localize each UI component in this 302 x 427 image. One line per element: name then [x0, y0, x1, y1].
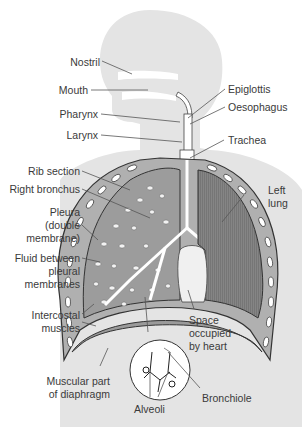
label-fluid-3: membranes [0, 278, 80, 290]
label-intercostal-1: Intercostal [0, 309, 80, 321]
label-nostril: Nostril [40, 56, 100, 68]
label-pharynx: Pharynx [40, 108, 98, 120]
label-space-2: occupied [189, 327, 231, 339]
label-mouth: Mouth [30, 84, 88, 96]
label-left-lung-2: lung [268, 197, 288, 209]
heart-space [178, 246, 207, 303]
label-space-1: Space [189, 314, 219, 326]
label-intercostal-2: muscles [0, 322, 80, 334]
label-fluid-1: Fluid between [0, 252, 80, 264]
label-epiglottis: Epiglottis [228, 83, 271, 95]
label-pleura-2: (double [0, 219, 80, 231]
label-left-lung-1: Left [268, 184, 286, 196]
label-trachea: Trachea [228, 134, 266, 146]
label-diaphragm-1: Muscular part [20, 375, 110, 387]
label-pleura-1: Pleura [0, 206, 80, 218]
label-bronchiole: Bronchiole [202, 392, 252, 404]
label-alveoli: Alveoli [134, 403, 165, 415]
label-fluid-2: pleural [0, 265, 80, 277]
label-oesophagus: Oesophagus [228, 101, 288, 113]
label-pleura-3: membrane) [0, 232, 80, 244]
label-right-bronchus: Right bronchus [0, 183, 80, 195]
label-diaphragm-2: of diaphragm [20, 388, 110, 400]
label-larynx: Larynx [40, 129, 98, 141]
label-rib-section: Rib section [0, 165, 80, 177]
label-space-3: by heart [189, 340, 227, 352]
